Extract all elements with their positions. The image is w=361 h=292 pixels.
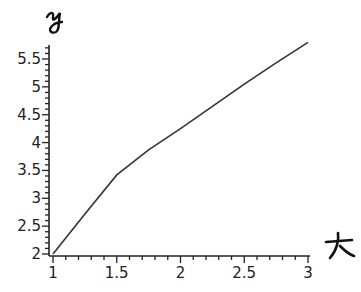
y-tick-label: 2.5 [17, 217, 41, 235]
data-line [53, 42, 308, 254]
tick-labels: 11.522.5322.533.544.555.5 [17, 50, 313, 282]
y-tick-label: 5.5 [17, 50, 41, 68]
y-tick-label: 3.5 [17, 161, 41, 179]
x-tick-label: 2 [176, 264, 186, 282]
line-chart: 11.522.5322.533.544.555.5 [0, 0, 361, 292]
x-tick-label: 1 [48, 264, 58, 282]
y-tick-label: 2 [31, 245, 41, 263]
y-tick-label: 5 [31, 78, 41, 96]
x-tick-label: 3 [303, 264, 313, 282]
y-tick-label: 4.5 [17, 106, 41, 124]
axis-ticks [42, 48, 308, 263]
x-axis-handwritten-label [326, 233, 354, 258]
y-tick-label: 4 [31, 134, 41, 152]
x-tick-label: 1.5 [105, 264, 129, 282]
x-tick-label: 2.5 [232, 264, 256, 282]
y-tick-label: 3 [31, 189, 41, 207]
y-axis-handwritten-label [47, 13, 62, 33]
axes [49, 45, 310, 256]
